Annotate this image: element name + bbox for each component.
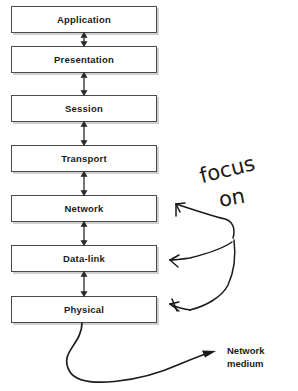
layer-label-application: Application bbox=[57, 15, 111, 25]
connector-presentation-session bbox=[82, 73, 87, 95]
network-medium-label: Network medium bbox=[227, 345, 264, 370]
handwritten-on-text: on bbox=[217, 184, 247, 212]
layer-label-transport: Transport bbox=[61, 154, 107, 164]
hand-arrowhead-data-link-a bbox=[170, 255, 179, 260]
layer-box-data-link[interactable]: Data-link bbox=[11, 245, 157, 272]
hand-arrow-data-link bbox=[170, 242, 232, 260]
hand-arrowhead-physical-b bbox=[170, 304, 179, 311]
layer-label-data-link: Data-link bbox=[63, 254, 105, 264]
layer-label-physical: Physical bbox=[64, 305, 104, 315]
connector-application-presentation bbox=[82, 33, 87, 46]
layer-box-physical[interactable]: Physical bbox=[11, 296, 157, 323]
connector-network-data-link bbox=[82, 222, 87, 245]
network-medium-line1: Network bbox=[227, 345, 264, 358]
network-medium-line2: medium bbox=[227, 358, 264, 371]
layer-box-transport[interactable]: Transport bbox=[11, 145, 157, 172]
layer-box-network[interactable]: Network bbox=[11, 195, 157, 222]
layer-box-application[interactable]: Application bbox=[11, 6, 157, 33]
hand-arrowhead-physical-cross bbox=[172, 299, 177, 311]
layer-label-presentation: Presentation bbox=[54, 55, 114, 65]
layer-box-presentation[interactable]: Presentation bbox=[11, 46, 157, 73]
connector-transport-network bbox=[82, 172, 87, 195]
hand-arrowhead-network-a bbox=[176, 204, 180, 212]
network-medium-arrowhead bbox=[202, 351, 216, 358]
connector-data-link-physical bbox=[82, 272, 87, 296]
layer-box-session[interactable]: Session bbox=[11, 95, 157, 122]
diagram-canvas: Application Presentation Session Transpo… bbox=[0, 0, 298, 391]
hand-arrowhead-network-b bbox=[176, 203, 185, 204]
handwritten-focus-text: focus bbox=[197, 151, 257, 188]
connector-session-transport bbox=[82, 122, 87, 145]
layer-label-network: Network bbox=[65, 204, 104, 214]
hand-arrowhead-physical-a bbox=[170, 302, 179, 304]
hand-arrow-physical bbox=[170, 304, 190, 310]
layer-label-session: Session bbox=[65, 104, 103, 114]
hand-stem-lower bbox=[190, 240, 235, 310]
hand-arrowhead-data-link-b bbox=[170, 260, 178, 267]
